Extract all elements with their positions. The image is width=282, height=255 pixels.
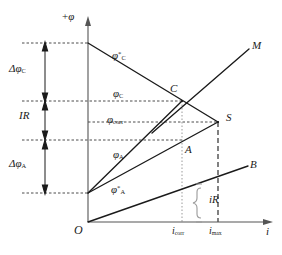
- y-axis-arrow: [85, 16, 91, 26]
- label-i-corr: icorr: [172, 226, 184, 237]
- label-delta-phi-A: ΔφA: [9, 158, 26, 170]
- label-phi-corr: φcorr: [107, 114, 123, 126]
- measurement-brackets: [42, 42, 47, 194]
- label-delta-phi-C: ΔφC: [9, 63, 26, 75]
- label-curve-B: B: [250, 159, 257, 170]
- polarization-diagram: +φ i O φ*C φC φcorr φA φ*A ΔφC IR ΔφA M …: [0, 0, 282, 255]
- label-iR-drop: iR: [209, 194, 219, 205]
- label-phi-C-star: φ*C: [112, 50, 126, 62]
- label-point-S: S: [226, 112, 232, 123]
- dot-S: [217, 121, 219, 123]
- origin-label: O: [74, 224, 83, 236]
- label-phi-A: φA: [113, 149, 124, 161]
- cathodic-curve: [88, 43, 218, 122]
- bracket-delta-phi-C: [42, 42, 47, 102]
- label-curve-M: M: [252, 40, 261, 51]
- label-i-max: imax: [209, 226, 222, 237]
- iR-brace: [193, 188, 201, 218]
- dot-C: [181, 100, 183, 102]
- label-point-A: A: [185, 144, 192, 155]
- label-point-C: C: [170, 83, 177, 94]
- bracket-IR: [42, 101, 47, 140]
- y-axis-label: +φ: [62, 11, 74, 22]
- bracket-delta-phi-A: [42, 140, 47, 194]
- anodic-curve-to-C: [88, 101, 182, 193]
- diagram-canvas: [0, 0, 282, 255]
- label-IR: IR: [19, 110, 29, 121]
- label-phi-A-star: φ*A: [111, 184, 125, 196]
- x-axis-label: i: [266, 226, 269, 237]
- label-phi-C: φC: [113, 88, 123, 100]
